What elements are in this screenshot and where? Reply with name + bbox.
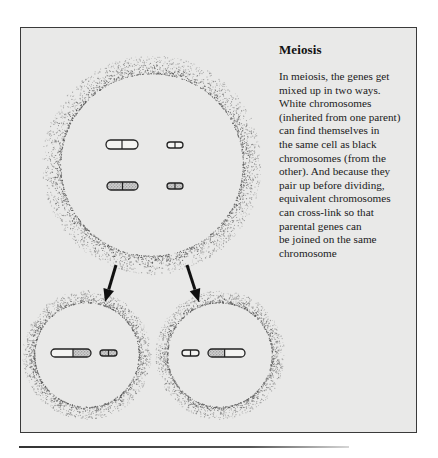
caption-line: other). And because they — [279, 165, 419, 179]
chromosome-crossed-black-white-large — [208, 349, 245, 357]
parent-cell-membrane — [42, 56, 261, 275]
caption-line: chromosome — [279, 247, 419, 261]
caption-line: the same cell as black — [279, 138, 419, 152]
figure-title: Meiosis — [279, 42, 322, 58]
cell-membranes — [22, 56, 284, 420]
caption-line: (inherited from one parent) — [279, 111, 419, 125]
chromosome-white-small — [182, 350, 199, 356]
chromosomes — [51, 140, 245, 357]
caption-line: can find themselves in — [279, 124, 419, 138]
caption-line: chromosomes (from the — [279, 152, 419, 166]
caption-line: In meiosis, the genes get — [279, 70, 419, 84]
chromosome-black-small — [100, 350, 117, 356]
chromosome-black-small — [167, 183, 183, 189]
chromosome-white-small — [167, 142, 183, 148]
caption-line: parental genes can — [279, 220, 419, 234]
arrow-down-icon — [187, 265, 200, 302]
caption-line: can cross-link so that — [279, 206, 419, 220]
chromosome-black-large — [107, 182, 138, 190]
caption-line: pair up before dividing, — [279, 179, 419, 193]
chromosome-white-large — [106, 140, 138, 149]
page-rule — [19, 446, 349, 448]
chromosome-crossed-white-black-large — [51, 349, 91, 357]
caption-line: White chromosomes — [279, 97, 419, 111]
caption-line: equivalent chromosomes — [279, 192, 419, 206]
figure-caption: In meiosis, the genes get mixed up in tw… — [279, 70, 419, 260]
caption-line: be joined on the same — [279, 233, 419, 247]
caption-line: mixed up in two ways. — [279, 84, 419, 98]
division-arrows — [103, 265, 200, 302]
